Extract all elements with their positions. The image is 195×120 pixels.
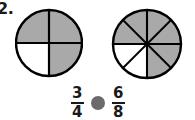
fraction-model-eighths bbox=[111, 6, 183, 82]
left-fraction: 3 4 bbox=[71, 86, 84, 120]
right-fraction-numerator: 6 bbox=[113, 86, 123, 101]
left-fraction-denominator: 4 bbox=[72, 105, 82, 120]
right-fraction-denominator: 8 bbox=[113, 105, 123, 120]
right-fraction: 6 8 bbox=[112, 86, 125, 120]
comparison-answer-bubble[interactable] bbox=[91, 96, 105, 110]
fraction-model-quarters bbox=[15, 6, 83, 80]
worksheet-item: 2. 3 4 6 8 bbox=[0, 0, 195, 120]
left-fraction-numerator: 3 bbox=[72, 86, 82, 101]
question-number: 2. bbox=[0, 0, 13, 18]
comparison-row: 3 4 6 8 bbox=[0, 86, 195, 120]
